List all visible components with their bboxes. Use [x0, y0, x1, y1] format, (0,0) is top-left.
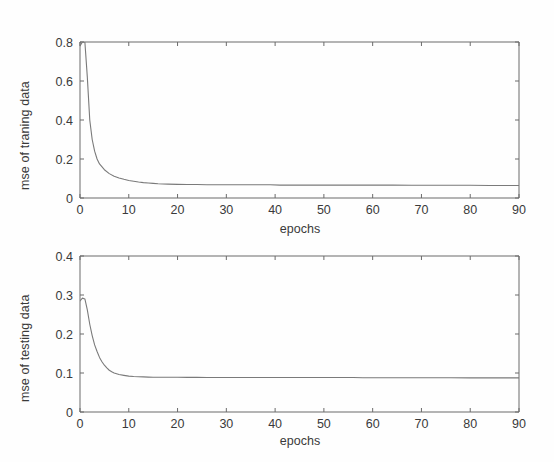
testing-plot-svg: 010203040506070809000.10.20.30.4	[0, 214, 554, 462]
x-tick-label: 20	[171, 417, 185, 431]
y-tick-label: 0.4	[56, 114, 73, 128]
training-plot-svg: 010203040506070809000.20.40.60.8	[0, 0, 554, 238]
x-tick-label: 70	[414, 417, 428, 431]
y-tick-label: 0	[66, 192, 73, 206]
plot-frame	[80, 256, 519, 412]
data-curve	[80, 42, 519, 186]
y-tick-label: 0.2	[56, 153, 73, 167]
y-tick-label: 0.3	[56, 289, 73, 303]
y-tick-label: 0	[66, 406, 73, 420]
x-tick-label: 90	[512, 417, 526, 431]
y-tick-label: 0.2	[56, 328, 73, 342]
y-tick-label: 0.8	[56, 36, 73, 50]
figure-canvas: mse of traning data 01020304050607080900…	[0, 0, 554, 462]
chart-panel-testing: mse of testing data 01020304050607080900…	[0, 214, 554, 462]
x-tick-label: 10	[122, 417, 136, 431]
x-tick-label: 60	[366, 417, 380, 431]
x-tick-label: 50	[317, 417, 331, 431]
x-axis-label-testing: epochs	[220, 434, 380, 448]
x-tick-label: 30	[219, 417, 233, 431]
data-curve	[80, 298, 519, 378]
x-tick-label: 0	[77, 417, 84, 431]
y-tick-label: 0.4	[56, 250, 73, 264]
plot-frame	[80, 42, 519, 198]
chart-panel-training: mse of traning data 01020304050607080900…	[0, 0, 554, 238]
y-tick-label: 0.6	[56, 75, 73, 89]
x-tick-label: 40	[268, 417, 282, 431]
y-tick-label: 0.1	[56, 367, 73, 381]
x-tick-label: 80	[463, 417, 477, 431]
